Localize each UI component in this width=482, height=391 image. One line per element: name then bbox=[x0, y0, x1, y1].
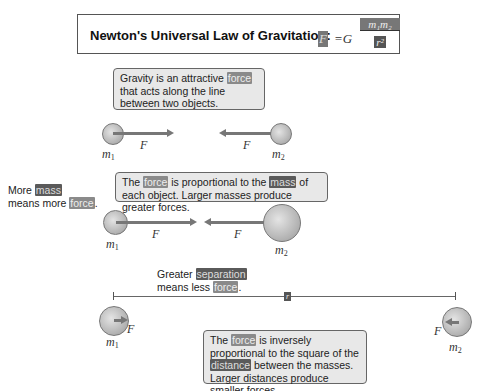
mass-2-label: m2 bbox=[275, 243, 288, 258]
force-arrow-right bbox=[116, 221, 191, 224]
note-text: that acts along the line between two obj… bbox=[120, 85, 225, 110]
mass-1-label: m1 bbox=[106, 237, 119, 252]
distance-tick-right bbox=[455, 292, 456, 300]
proportional-mass-note: The force is proportional to the mass of… bbox=[115, 172, 328, 202]
mass-highlight: mass bbox=[35, 184, 62, 196]
mass-2-ball-large bbox=[263, 204, 301, 242]
force-highlight: force bbox=[69, 197, 94, 209]
mass-1-label: m1 bbox=[106, 335, 119, 350]
mass-highlight: mass bbox=[269, 176, 296, 188]
force-highlight: force bbox=[227, 72, 252, 84]
equation-g: =G bbox=[334, 31, 352, 47]
force-label: F bbox=[234, 227, 241, 242]
distance-highlight: distance bbox=[210, 359, 251, 371]
force-label: F bbox=[127, 322, 134, 337]
mass-2-label: m2 bbox=[272, 147, 285, 162]
force-arrow-small-left bbox=[451, 321, 459, 324]
equation-fraction: m₁m₂ r² bbox=[360, 18, 400, 50]
force-highlight: force bbox=[213, 281, 238, 293]
more-mass-note: More mass means more force. bbox=[8, 184, 108, 210]
force-label: F bbox=[434, 324, 441, 339]
attractive-force-note: Gravity is an attractive force that acts… bbox=[113, 68, 265, 110]
mass-1-label: m1 bbox=[102, 147, 115, 162]
title-box: Newton's Universal Law of Gravitation: F… bbox=[77, 14, 400, 54]
title: Newton's Universal Law of Gravitation: bbox=[90, 28, 331, 43]
separation-highlight: separation bbox=[196, 268, 247, 280]
equation-force: F bbox=[318, 31, 328, 47]
force-highlight: force bbox=[231, 334, 256, 346]
force-label: F bbox=[140, 138, 147, 153]
distance-label: r bbox=[284, 292, 291, 301]
mass-2-label: m2 bbox=[449, 340, 462, 355]
force-highlight: force bbox=[143, 176, 168, 188]
force-label: F bbox=[243, 138, 250, 153]
separation-note: Greater separation means less force. bbox=[157, 268, 277, 294]
equation-numerator: m₁m₂ bbox=[360, 18, 400, 31]
force-arrow-right bbox=[113, 132, 168, 135]
note-text: Gravity is an attractive bbox=[120, 72, 227, 84]
force-label: F bbox=[152, 227, 159, 242]
force-arrow-small-right bbox=[114, 319, 122, 322]
equation-denominator: r² bbox=[374, 36, 386, 48]
mass-2-ball bbox=[270, 123, 292, 145]
inverse-square-note: The force is inversely proportional to t… bbox=[203, 330, 367, 384]
